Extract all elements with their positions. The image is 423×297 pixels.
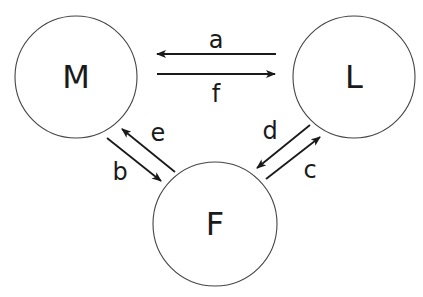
edge-label-b: b [112, 158, 127, 186]
node-m: M [15, 16, 137, 138]
edge-d: d [257, 117, 310, 168]
node-m-label: M [62, 58, 90, 96]
node-l: L [293, 16, 415, 138]
edge-label-a: a [209, 26, 224, 54]
edge-label-d: d [262, 117, 277, 145]
edge-label-e: e [151, 119, 166, 147]
edge-e: e [122, 119, 175, 172]
edge-label-c: c [303, 156, 316, 184]
arrow-e [122, 129, 175, 172]
state-diagram: M L F a f b e d c [0, 0, 423, 297]
edge-a: a [157, 26, 276, 54]
node-f-label: F [206, 205, 224, 243]
edge-f: f [157, 74, 275, 108]
node-f: F [153, 162, 277, 286]
node-l-label: L [345, 58, 363, 96]
edge-label-f: f [212, 80, 221, 108]
